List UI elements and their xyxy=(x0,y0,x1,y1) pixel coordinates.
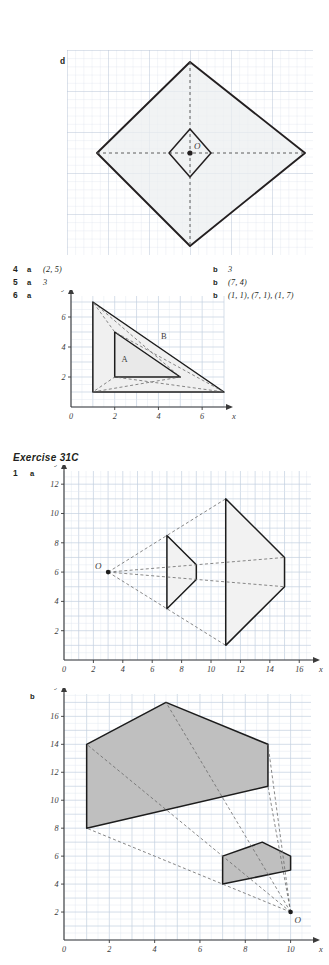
exercise-heading: Exercise 31C xyxy=(13,452,79,463)
y-tick-label: 2 xyxy=(54,627,58,636)
x-tick-label: 2 xyxy=(91,665,95,674)
figure-label-d: d xyxy=(60,56,65,66)
y-tick-label: 8 xyxy=(54,539,58,548)
part-a-value: 3 xyxy=(43,276,47,289)
question-number: 5 xyxy=(13,276,18,289)
question-number: 6 xyxy=(13,289,18,302)
svg-text:O: O xyxy=(194,141,201,151)
x-tick-label: 4 xyxy=(156,412,160,421)
y-tick-label: 16 xyxy=(50,712,59,721)
part-a-value: (2, 5) xyxy=(43,263,62,276)
y-tick-label: 12 xyxy=(50,768,58,777)
x-axis-label: x xyxy=(318,664,323,674)
y-tick-label: 4 xyxy=(54,597,58,606)
y-tick-label: 14 xyxy=(50,740,58,749)
x-tick-label: 0 xyxy=(62,665,66,674)
y-tick-label: 12 xyxy=(50,480,58,489)
x-tick-label: 10 xyxy=(207,665,215,674)
centre-label: O xyxy=(95,561,102,571)
object-small xyxy=(223,842,291,884)
y-axis-label: y xyxy=(54,688,59,690)
x-tick-label: 2 xyxy=(113,412,117,421)
y-tick-label: 6 xyxy=(54,852,59,861)
figure-d-kite: O xyxy=(67,50,313,255)
question-number: 4 xyxy=(13,263,18,276)
x-tick-label: 10 xyxy=(287,945,295,954)
part-b-value: 3 xyxy=(228,263,232,276)
shape-label: B xyxy=(161,331,167,341)
y-axis-label: y xyxy=(61,290,66,292)
x-tick-label: 6 xyxy=(200,412,205,421)
x-axis-label: x xyxy=(231,411,236,421)
part-a-key: a xyxy=(27,263,31,276)
y-tick-label: 2 xyxy=(54,908,58,917)
centre-point xyxy=(288,910,293,915)
x-tick-label: 14 xyxy=(266,665,274,674)
part-b-key: b xyxy=(213,263,218,276)
y-tick-label: 6 xyxy=(61,313,66,322)
part-a-key: a xyxy=(27,276,31,289)
answer-row: 4 a (2, 5) b 3 xyxy=(0,263,329,276)
x-tick-label: 6 xyxy=(198,945,203,954)
x-tick-label: 8 xyxy=(243,945,247,954)
y-axis-label: y xyxy=(54,465,59,467)
answer-book-page: d O 4 a xyxy=(0,0,329,965)
x-tick-label: 2 xyxy=(107,945,111,954)
x-tick-label: 4 xyxy=(153,945,157,954)
y-tick-label: 4 xyxy=(61,343,65,352)
y-tick-label: 2 xyxy=(61,373,65,382)
part-a-key: a xyxy=(27,289,31,302)
figure-1a: 024681012141624681012xyO xyxy=(40,465,325,680)
x-axis-label: x xyxy=(318,944,323,954)
y-tick-label: 6 xyxy=(54,568,59,577)
y-tick-label: 10 xyxy=(50,796,58,805)
x-tick-label: 12 xyxy=(236,665,244,674)
centre-label: O xyxy=(295,915,302,925)
x-tick-label: 16 xyxy=(295,665,304,674)
x-tick-label: 8 xyxy=(180,665,184,674)
question-1-part-b: b xyxy=(30,692,35,701)
x-tick-label: 4 xyxy=(121,665,125,674)
x-tick-label: 6 xyxy=(150,665,155,674)
question-1-part-a: a xyxy=(30,469,34,478)
part-b-key: b xyxy=(213,276,218,289)
part-b-value: (7, 4) xyxy=(228,276,247,289)
shape-label: A xyxy=(121,354,128,364)
y-tick-label: 4 xyxy=(54,880,58,889)
x-tick-label: 0 xyxy=(62,945,66,954)
answer-row: 5 a 3 b (7, 4) xyxy=(0,276,329,289)
x-tick-label: 0 xyxy=(69,412,73,421)
y-tick-label: 10 xyxy=(50,509,58,518)
y-tick-label: 8 xyxy=(54,824,58,833)
figure-1b: 0246810246810121416xyO xyxy=(40,688,325,960)
centre-point xyxy=(106,570,111,575)
question-1-number: 1 xyxy=(13,468,18,478)
figure-6a: 0246246xyAB xyxy=(55,290,240,425)
